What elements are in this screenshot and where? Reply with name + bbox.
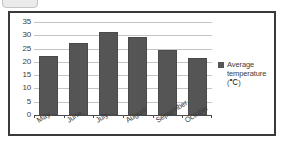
y-axis-tick-label: 5 — [27, 98, 31, 106]
y-axis-tick-label: 0 — [27, 111, 31, 119]
y-axis-tick-label: 35 — [23, 18, 32, 26]
x-axis-tick-labels: MayJuneJulyAugustSeptemberOctober — [34, 117, 234, 147]
y-axis-tick-label: 20 — [23, 58, 32, 66]
cropped-ui-artifact — [2, 0, 38, 8]
chart-legend: Average temperature (℃) — [218, 60, 276, 87]
chart-canvas: 05101520253035 MayJuneJulyAugustSeptembe… — [10, 13, 274, 134]
bar-august — [128, 37, 147, 115]
y-axis-tick-label: 30 — [23, 31, 32, 39]
legend-swatch-average-temperature — [218, 62, 224, 68]
bar-july — [99, 32, 118, 115]
y-axis-tick-label: 10 — [23, 84, 32, 92]
chart-frame: 05101520253035 MayJuneJulyAugustSeptembe… — [8, 11, 276, 136]
y-axis-tick-label: 25 — [23, 45, 32, 53]
y-axis-tick-label: 15 — [23, 71, 32, 79]
y-axis-tick-labels: 05101520253035 — [10, 22, 31, 115]
bar-june — [69, 43, 88, 115]
legend-label-average-temperature: Average temperature (℃) — [227, 60, 276, 87]
bar-may — [39, 56, 58, 115]
